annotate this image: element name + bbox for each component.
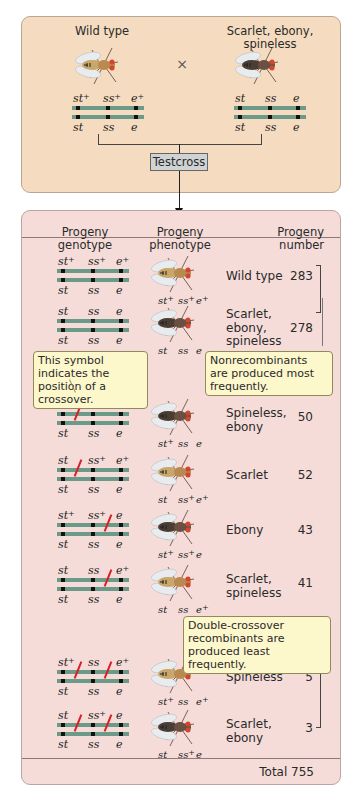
locus-dot [119, 319, 123, 323]
locus-dot [61, 328, 65, 332]
locus-dot [91, 477, 95, 481]
phenotype-allele-label: ss [178, 345, 188, 356]
chromosome-bar [234, 115, 306, 119]
chromosome-bar [72, 115, 144, 119]
locus-dot [91, 278, 95, 282]
allele-label: e [116, 539, 123, 550]
phenotype-label: Scarlet [226, 469, 288, 483]
locus-dot [61, 723, 65, 727]
chromosome-bar [57, 587, 129, 591]
header-genotype: Progeny genotype [45, 226, 125, 252]
locus-dot [61, 319, 65, 323]
locus-dot [91, 523, 95, 527]
allele-label: st+ [58, 256, 75, 267]
locus-dot [91, 532, 95, 536]
fruit-fly-icon [232, 42, 288, 90]
locus-dot [61, 523, 65, 527]
allele-label: e [116, 594, 123, 605]
chromosome-bar [57, 421, 129, 425]
allele-label: ss [88, 335, 99, 346]
locus-dot [61, 578, 65, 582]
chromosome-bar [72, 106, 144, 110]
locus-dot [91, 328, 95, 332]
locus-dot [61, 670, 65, 674]
locus-dot [91, 587, 95, 591]
phenotype-allele-label: e [196, 345, 202, 356]
allele-label: ss+ [88, 710, 106, 721]
progeny-count: 43 [285, 524, 313, 537]
locus-dot [61, 679, 65, 683]
allele-label: st [58, 285, 68, 296]
allele-label: st [235, 93, 245, 104]
allele-label: ss [88, 428, 99, 439]
locus-dot [91, 679, 95, 683]
chromosome-bar [57, 578, 129, 582]
allele-label: e [116, 335, 123, 346]
allele-label: ss [265, 122, 276, 133]
locus-dot [61, 421, 65, 425]
progeny-count: 50 [285, 411, 313, 424]
locus-dot [91, 578, 95, 582]
allele-label: st [235, 122, 245, 133]
phenotype-label: Scarlet, ebony, spineless [226, 308, 288, 349]
chromosome-bar [57, 679, 129, 683]
locus-dot [91, 412, 95, 416]
allele-label: e [116, 285, 123, 296]
phenotype-allele-label: st+ [158, 438, 174, 449]
locus-dot [119, 328, 123, 332]
allele-label: st [58, 539, 68, 550]
phenotype-allele-label: ss [178, 604, 188, 615]
chromosome-bar [234, 106, 306, 110]
double-crossover-bracket [316, 666, 321, 728]
phenotype-allele-label: ss [178, 438, 188, 449]
phenotype-label: Scarlet, spineless [226, 573, 288, 600]
nonrecombinant-pointer [322, 298, 323, 346]
allele-label: ss+ [88, 256, 106, 267]
locus-dot [119, 477, 123, 481]
locus-dot [119, 278, 123, 282]
allele-label: st [58, 455, 68, 466]
allele-label: e [293, 122, 300, 133]
parents-bracket [98, 134, 262, 145]
bracket-stem [179, 144, 180, 153]
allele-label: st+ [58, 657, 75, 668]
allele-label: st [58, 306, 68, 317]
allele-label: st [58, 428, 68, 439]
chromosome-bar [57, 732, 129, 736]
allele-label: e [293, 93, 300, 104]
locus-dot [91, 723, 95, 727]
chromosome-bar [57, 468, 129, 472]
locus-dot [296, 115, 300, 119]
locus-dot [119, 679, 123, 683]
allele-label: e+ [116, 657, 129, 668]
allele-label: e [116, 686, 123, 697]
locus-dot [134, 106, 138, 110]
locus-dot [76, 115, 80, 119]
allele-label: st [73, 122, 83, 133]
double-crossover-callout: Double-crossover recombinants are produc… [183, 616, 331, 674]
allele-label: ss+ [88, 510, 106, 521]
allele-label: e+ [131, 93, 144, 104]
phenotype-allele-label: e+ [196, 604, 209, 615]
fruit-fly-icon [72, 42, 128, 90]
phenotype-label: Scarlet, ebony [226, 718, 288, 745]
crossover-symbol-callout: This symbol indicates the position of a … [33, 351, 148, 409]
allele-label: ss+ [88, 455, 106, 466]
locus-dot [91, 319, 95, 323]
locus-dot [268, 115, 272, 119]
allele-label: ss [103, 122, 114, 133]
locus-dot [61, 587, 65, 591]
allele-label: e [116, 710, 123, 721]
locus-dot [106, 106, 110, 110]
fruit-fly-icon [148, 504, 204, 552]
fruit-fly-icon [148, 300, 204, 348]
allele-label: ss [265, 93, 276, 104]
locus-dot [61, 278, 65, 282]
locus-dot [119, 532, 123, 536]
progeny-count: 3 [285, 722, 313, 735]
phenotype-allele-label: st [158, 749, 167, 760]
locus-dot [91, 468, 95, 472]
allele-label: st [58, 565, 68, 576]
allele-label: st [58, 739, 68, 750]
allele-label: st+ [73, 93, 90, 104]
